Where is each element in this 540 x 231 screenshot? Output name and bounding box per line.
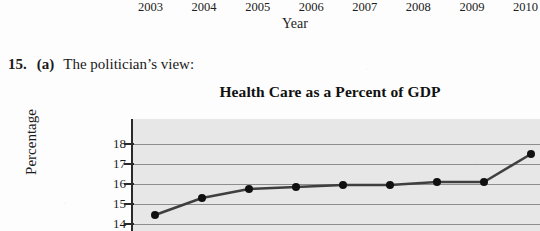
tick-mark bbox=[124, 183, 134, 185]
data-point-marker bbox=[527, 150, 535, 158]
data-point-marker bbox=[386, 181, 394, 189]
problem-number: 15. bbox=[8, 56, 27, 73]
x-tick-label: 2006 bbox=[299, 0, 324, 15]
data-point-markers bbox=[151, 150, 535, 219]
y-axis-tick-marks bbox=[124, 119, 134, 231]
previous-figure-x-axis-tick-labels: 2003 2004 2005 2006 2007 2008 2009 2010 bbox=[138, 0, 538, 16]
x-tick-label: 2007 bbox=[352, 0, 377, 15]
data-point-marker bbox=[292, 183, 300, 191]
tick-mark bbox=[124, 163, 134, 165]
previous-figure-x-axis-title: Year bbox=[0, 16, 540, 32]
line-chart: Percentage 18 17 16 15 14 bbox=[0, 110, 540, 231]
data-point-marker bbox=[151, 211, 159, 219]
x-tick-label: 2004 bbox=[192, 0, 217, 15]
tick-mark bbox=[124, 203, 134, 205]
data-point-marker bbox=[433, 178, 441, 186]
plot-area bbox=[132, 119, 540, 231]
x-tick-label: 2010 bbox=[513, 0, 538, 15]
tick-mark bbox=[124, 143, 134, 145]
y-axis-tick-labels: 18 17 16 15 14 bbox=[86, 119, 126, 231]
data-point-marker bbox=[245, 185, 253, 193]
data-point-marker bbox=[198, 194, 206, 202]
data-point-marker bbox=[339, 181, 347, 189]
x-tick-label: 2008 bbox=[406, 0, 431, 15]
problem-text: The politician’s view: bbox=[63, 56, 194, 73]
data-point-marker bbox=[480, 178, 488, 186]
problem-part-label: (a) bbox=[37, 56, 55, 73]
x-tick-label: 2005 bbox=[245, 0, 270, 15]
x-tick-label: 2003 bbox=[138, 0, 163, 15]
y-axis-title: Percentage bbox=[23, 87, 43, 197]
x-tick-label: 2009 bbox=[459, 0, 484, 15]
problem-statement: 15. (a) The politician’s view: bbox=[8, 56, 194, 73]
tick-mark bbox=[124, 223, 134, 225]
chart-title: Health Care as a Percent of GDP bbox=[150, 83, 510, 101]
scanned-textbook-page: 2003 2004 2005 2006 2007 2008 2009 2010 … bbox=[0, 0, 540, 231]
data-series-line bbox=[132, 119, 540, 231]
